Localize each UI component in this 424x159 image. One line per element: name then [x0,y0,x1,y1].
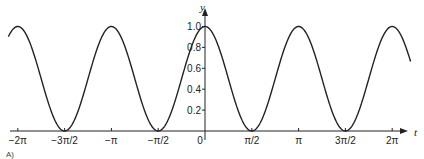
y-tick-label: 0.6 [187,63,201,74]
cosine-squared-chart: −2π−3π/2−π−π/20π/2π3π/22π 0.20.40.60.81.… [0,0,424,159]
y-tick-label: 0.2 [187,105,201,116]
x-tick-label: 3π/2 [335,135,356,146]
x-tick-label: −2π [9,135,27,146]
x-tick-label: −3π/2 [51,135,78,146]
x-tick-label: 2π [386,135,399,146]
x-tick-label: −π/2 [148,135,170,146]
x-tick-label: π [295,135,302,146]
y-axis-label: y [199,1,205,13]
figure-caption: A) [6,150,14,159]
y-tick-label: 0.4 [187,84,201,95]
x-tick-label: −π [105,135,118,146]
x-tick-label: π/2 [244,135,260,146]
x-tick-label: 0 [197,135,203,146]
cos-squared-curve [8,27,410,132]
x-axis-label: t [414,126,418,138]
